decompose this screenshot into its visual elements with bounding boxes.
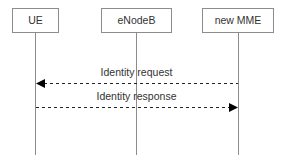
participant-label: UE (28, 14, 43, 26)
message-label: Identity request (101, 66, 173, 78)
participant-label: new MME (215, 14, 262, 26)
arrowhead-right-icon (229, 103, 238, 112)
message-label: Identity response (97, 90, 177, 102)
participant-ue: UE (13, 9, 59, 33)
sequence-diagram: UE eNodeB new MME Identity request Ident… (0, 0, 286, 160)
participant-label: eNodeB (118, 14, 156, 26)
participant-new-mme: new MME (203, 9, 274, 33)
participant-enodeb: eNodeB (102, 9, 172, 33)
arrowhead-left-icon (36, 79, 45, 88)
